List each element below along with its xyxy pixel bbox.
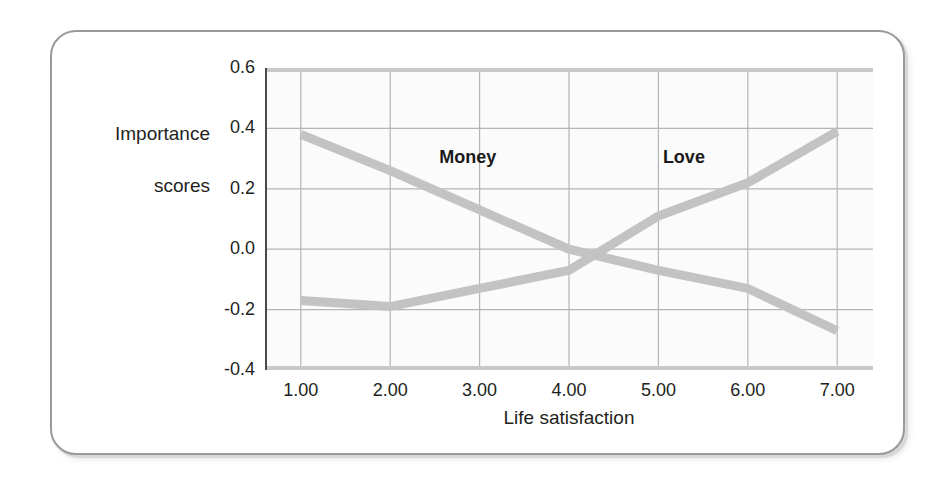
plot-area [265,68,873,370]
x-axis-title: Life satisfaction [265,407,873,429]
y-tick-label-0.0: 0.0 [209,238,255,259]
x-tick-label-7.00: 7.00 [802,380,872,401]
x-tick-label-5.00: 5.00 [623,380,693,401]
y-axis-title-line1: Importance [62,121,210,147]
gridlines [265,68,873,370]
series-label-love: Love [663,147,705,168]
y-axis-title-line2: scores [62,173,210,199]
y-tick-label-0.2: 0.2 [209,178,255,199]
x-tick-label-6.00: 6.00 [713,380,783,401]
x-tick-label-4.00: 4.00 [534,380,604,401]
y-tick-label--0.4: -0.4 [209,359,255,380]
y-tick-label--0.2: -0.2 [209,299,255,320]
y-tick-label-0.4: 0.4 [209,117,255,138]
x-tick-label-3.00: 3.00 [445,380,515,401]
y-axis-title: Importance scores [62,95,210,225]
chart-canvas [265,68,873,370]
series-label-money: Money [439,147,496,168]
x-tick-label-2.00: 2.00 [355,380,425,401]
x-tick-label-1.00: 1.00 [266,380,336,401]
figure-root: Importance scores 0.60.40.20.0-0.2-0.4 1… [0,0,952,488]
y-tick-label-0.6: 0.6 [209,57,255,78]
